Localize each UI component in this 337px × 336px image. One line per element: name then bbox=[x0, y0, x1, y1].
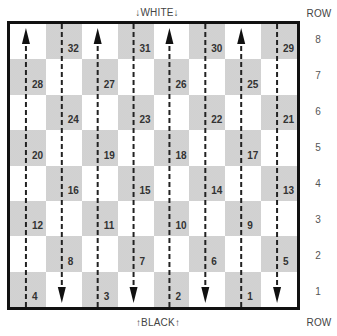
arrow-up-icon bbox=[237, 28, 245, 307]
white-side-label: ↓WHITE↓ bbox=[127, 7, 187, 18]
row-number-label: 2 bbox=[310, 250, 326, 261]
arrow-up-icon bbox=[165, 28, 173, 307]
row-number-label: 5 bbox=[310, 142, 326, 153]
row-number-label: 3 bbox=[310, 214, 326, 225]
arrow-up-icon bbox=[22, 28, 30, 307]
arrow-down-icon bbox=[130, 24, 138, 303]
direction-arrows bbox=[10, 24, 297, 307]
checkerboard: 3231302928272625242322212019181716151413… bbox=[7, 21, 300, 310]
row-header-bottom: ROW bbox=[305, 317, 333, 328]
arrow-up-icon bbox=[94, 28, 102, 307]
row-number-label: 7 bbox=[310, 70, 326, 81]
arrow-down-icon bbox=[273, 24, 281, 303]
arrow-down-icon bbox=[201, 24, 209, 303]
row-number-label: 1 bbox=[310, 286, 326, 297]
row-header-top: ROW bbox=[305, 8, 333, 19]
arrow-down-icon bbox=[58, 24, 66, 303]
row-number-label: 6 bbox=[310, 106, 326, 117]
black-side-label: ↑BLACK↑ bbox=[128, 317, 188, 328]
row-number-label: 8 bbox=[310, 34, 326, 45]
row-number-label: 4 bbox=[310, 178, 326, 189]
